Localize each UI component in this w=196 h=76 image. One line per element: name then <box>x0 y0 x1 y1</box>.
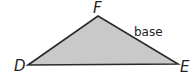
triangle-diagram: D E F base <box>0 0 196 76</box>
vertex-label-f: F <box>93 0 102 17</box>
triangle-def <box>28 16 178 65</box>
vertex-label-d: D <box>14 57 26 75</box>
vertex-label-e: E <box>180 58 190 76</box>
side-label-base: base <box>134 25 163 39</box>
